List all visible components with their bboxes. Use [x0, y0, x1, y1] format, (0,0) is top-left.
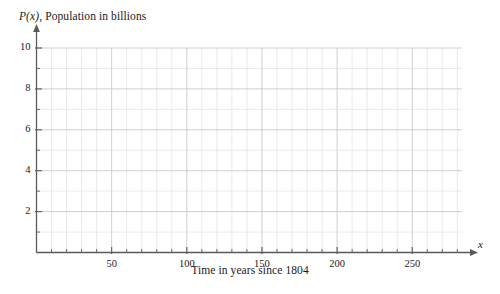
x-axis-variable-label: x: [478, 238, 483, 250]
graph-figure: P(x), Population in billions Time in yea…: [0, 0, 500, 294]
x-axis-tick-label: 250: [397, 258, 427, 269]
y-axis-label: P(x), Population in billions: [19, 10, 146, 22]
y-axis-tick-label: 6: [11, 123, 31, 134]
y-axis-label-function: P(x): [19, 10, 39, 22]
x-axis-tick-label: 150: [247, 258, 277, 269]
x-axis-arrowhead: [470, 249, 478, 256]
y-axis-tick-label: 4: [11, 164, 31, 175]
plot-area: [0, 0, 500, 294]
x-axis-tick-label: 100: [172, 258, 202, 269]
y-axis-label-rest: , Population in billions: [39, 10, 146, 22]
y-axis-tick-label: 2: [11, 205, 31, 216]
x-axis-tick-label: 200: [322, 258, 352, 269]
y-axis-arrowhead: [33, 24, 40, 32]
y-axis-tick-label: 8: [11, 82, 31, 93]
x-axis-tick-label: 50: [97, 258, 127, 269]
y-axis-tick-label: 10: [11, 41, 31, 52]
